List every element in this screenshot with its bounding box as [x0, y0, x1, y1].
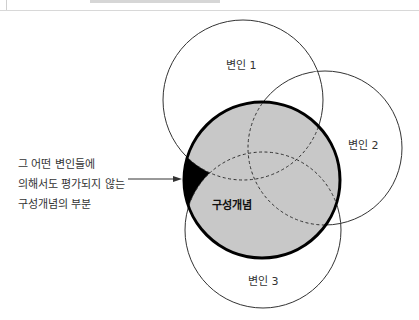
variable-1-label: 변인 1	[226, 56, 257, 72]
annotation-line-1: 그 어떤 변인들에	[18, 155, 125, 175]
annotation-line-2: 의해서도 평가되지 않는	[18, 175, 125, 195]
arrow-head-icon	[173, 176, 182, 182]
annotation-line-3: 구성개념의 부분	[18, 195, 125, 215]
variable-3-label: 변인 3	[248, 272, 279, 288]
construct-label: 구성개념	[212, 196, 252, 212]
annotation-text: 그 어떤 변인들에 의해서도 평가되지 않는 구성개념의 부분	[18, 155, 125, 215]
variable-2-label: 변인 2	[348, 136, 379, 152]
venn-diagram: 변인 1 변인 2 변인 3 구성개념 그 어떤 변인들에 의해서도 평가되지 …	[0, 0, 419, 320]
